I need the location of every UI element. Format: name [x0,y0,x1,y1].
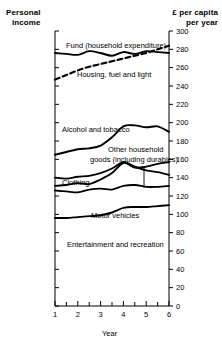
x-tick-label: 4 [121,310,125,319]
x-axis-tick-labels: 123456 [53,310,171,319]
x-axis-ticks [55,301,169,306]
series-label-housing: Housing, fuel and light [77,70,151,79]
series-label-alcohol: Alcohol and tobacco [62,125,130,134]
y-tick-label: 120 [176,192,189,201]
y-axis-tick-labels: 3002802602402202001801601401201008060402… [176,27,189,311]
x-tick-label: 1 [53,310,57,319]
chart-figure: Personal income £ per capita per year 30… [0,0,222,352]
y-tick-label: 220 [176,100,189,109]
y-tick-label: 80 [176,228,184,237]
series-label-other-goods: Other household goods (including durable… [108,145,178,164]
y-tick-label: 280 [176,45,189,54]
x-tick-label: 3 [99,310,103,319]
x-tick-label: 6 [167,310,171,319]
series-label-motor: Motor vehicles [91,211,139,220]
y-tick-label: 0 [176,302,180,311]
right-axis-ticks [169,31,173,306]
y-tick-label: 260 [176,63,189,72]
series-label-entertainment: Entertainment and recreation [67,240,164,249]
chart-canvas: 3002802602402202001801601401201008060402… [0,0,222,352]
y-tick-label: 240 [176,82,189,91]
series-label-other-goods-line1: Other household [108,145,178,155]
series-label-clothing: Clothing [62,178,90,187]
left-axis-ticks [55,31,59,306]
y-tick-label: 300 [176,27,189,36]
series-label-fund: Fund (household expenditure) [66,41,166,50]
x-axis-label: Year [102,329,117,338]
y-tick-label: 100 [176,210,189,219]
y-tick-label: 200 [176,118,189,127]
x-tick-label: 5 [144,310,148,319]
y-tick-label: 140 [176,173,189,182]
series-label-other-goods-line2: goods (including durables) [90,155,178,165]
y-tick-label: 20 [176,283,184,292]
x-tick-label: 2 [76,310,80,319]
y-tick-label: 40 [176,265,184,274]
y-tick-label: 60 [176,247,184,256]
